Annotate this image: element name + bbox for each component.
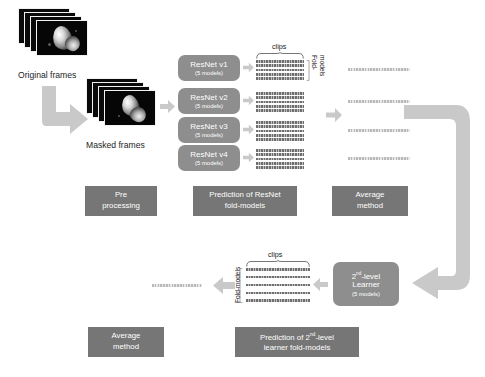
grid-row xyxy=(256,77,304,80)
grid-row xyxy=(256,166,304,169)
grid-row xyxy=(246,299,310,302)
grid-row xyxy=(256,92,304,95)
masked-to-models-arrow xyxy=(160,100,175,113)
caption-line-1: Average xyxy=(112,331,141,342)
grid-row xyxy=(256,69,304,72)
model-sub: (5 models) xyxy=(195,132,223,139)
model-to-grid-arrow xyxy=(243,62,254,73)
model-sub: (5 models) xyxy=(195,70,223,77)
clips-label-bottom: clips xyxy=(268,250,282,259)
model-to-grid-arrow xyxy=(243,152,254,163)
grid-row xyxy=(256,158,304,161)
grid-row xyxy=(256,130,304,133)
fold-models-label-top-line1: Fold- xyxy=(311,55,318,70)
masked-frames-stack xyxy=(86,78,162,134)
grid-row xyxy=(256,101,304,104)
fold-models-label-bottom: Fold-models xyxy=(234,267,241,303)
grid-row xyxy=(246,268,310,271)
clip-grid-second-level xyxy=(246,268,310,302)
caption-line-1: Prediction of 2nd-level xyxy=(260,331,334,343)
model-name: ResNet v2 xyxy=(190,93,227,102)
caption-line-1: Prediction of ResNet xyxy=(209,190,281,201)
caption-line-2: processing xyxy=(102,201,140,212)
clip-grid-fold-3 xyxy=(256,121,304,141)
frame-layer-top xyxy=(104,90,156,126)
second-level-sub: (5 models) xyxy=(352,291,380,298)
pipeline-diagram: Original frames Masked frames ResNet v1 … xyxy=(0,0,485,377)
grid-row xyxy=(246,292,310,295)
averaged-bar xyxy=(348,100,410,103)
frame-layer-top xyxy=(36,20,88,56)
grid-to-average-arrow-bottom xyxy=(213,277,235,294)
clip-grid-fold-2 xyxy=(256,92,304,112)
caption-box-prediction-resnet: Prediction of ResNet fold-models xyxy=(193,186,297,216)
grid-row xyxy=(256,109,304,112)
model-sub: (5 models) xyxy=(195,103,223,110)
caption-box-average-method-top: Average method xyxy=(332,186,408,216)
clips-brace-top xyxy=(256,52,304,59)
preprocess-elbow-arrow xyxy=(34,86,92,136)
model-name: ResNet v1 xyxy=(190,60,227,69)
model-box-second-level-learner[interactable]: 2nd-level Learner (5 models) xyxy=(333,262,399,306)
grid-row xyxy=(256,149,304,152)
caption-line-2: method xyxy=(113,342,139,353)
averaged-bar xyxy=(348,129,410,132)
averaged-bar-final xyxy=(152,284,202,287)
grid-row xyxy=(256,125,304,128)
clip-grid-fold-4 xyxy=(256,149,304,169)
caption-line-1: Pre xyxy=(115,190,127,201)
model-name: ResNet v3 xyxy=(190,122,227,131)
grid-row xyxy=(256,60,304,63)
caption-box-average-method-bottom: Average method xyxy=(88,327,164,357)
model-to-grid-arrow xyxy=(243,95,254,106)
caption-line-2: learner fold-models xyxy=(264,343,331,354)
caption-line-2: method xyxy=(357,201,383,212)
model-name: ResNet v4 xyxy=(190,150,227,159)
model-box-resnet-v1[interactable]: ResNet v1 (5 models) xyxy=(178,55,240,81)
grid-row xyxy=(256,105,304,108)
caption-box-pre-processing: Pre processing xyxy=(85,186,157,216)
grid-row xyxy=(256,153,304,156)
model-box-resnet-v2[interactable]: ResNet v2 (5 models) xyxy=(178,88,240,114)
original-frames-label: Original frames xyxy=(18,70,76,80)
model-box-resnet-v4[interactable]: ResNet v4 (5 models) xyxy=(178,145,240,171)
second-level-name: 2nd-level xyxy=(352,271,381,281)
averaged-bar xyxy=(348,157,410,160)
grid-row xyxy=(256,96,304,99)
model-box-resnet-v3[interactable]: ResNet v3 (5 models) xyxy=(178,117,240,143)
grid-row xyxy=(256,64,304,67)
caption-box-prediction-second-level: Prediction of 2nd-level learner fold-mod… xyxy=(235,327,359,357)
model-sub: (5 models) xyxy=(195,160,223,167)
fold-models-label-top-line2: models xyxy=(319,55,326,76)
second-level-to-grid-arrow xyxy=(313,278,328,291)
grid-row xyxy=(256,162,304,165)
average-to-second-level-elbow-arrow xyxy=(404,100,482,300)
grid-row xyxy=(256,138,304,141)
original-frames-stack xyxy=(18,8,90,64)
averaged-bar xyxy=(348,68,410,71)
grid-row xyxy=(246,276,310,279)
grid-row xyxy=(256,121,304,124)
grid-to-average-arrow xyxy=(326,108,342,122)
clip-grid-fold-1 xyxy=(256,60,304,80)
model-to-grid-arrow xyxy=(243,124,254,135)
clips-brace-bottom xyxy=(246,260,310,267)
masked-frames-label: Masked frames xyxy=(86,140,145,150)
caption-line-1: Average xyxy=(356,190,385,201)
second-level-name-line2: Learner xyxy=(352,280,380,289)
grid-row xyxy=(246,284,310,287)
grid-row xyxy=(256,134,304,137)
grid-row xyxy=(256,73,304,76)
clips-label-top: clips xyxy=(272,42,286,51)
caption-line-2: fold-models xyxy=(225,201,265,212)
